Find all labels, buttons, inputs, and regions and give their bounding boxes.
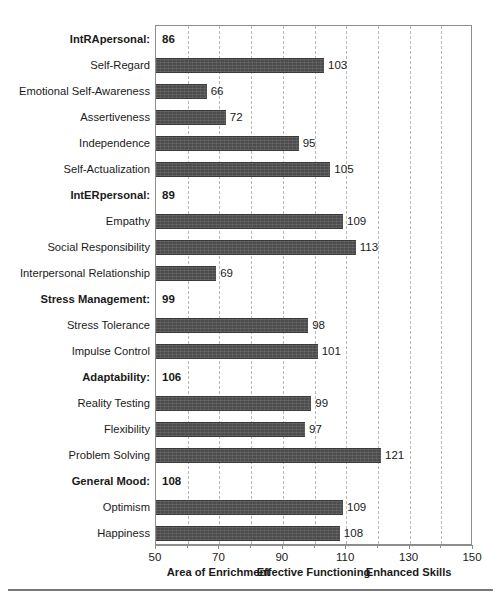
x-tick-label: 90	[275, 551, 288, 563]
bar-value-label: 97	[309, 415, 322, 444]
bar-value-label: 108	[344, 519, 363, 548]
section-score: 89	[162, 181, 175, 210]
bar-value-label: 121	[385, 441, 404, 470]
emotional-intelligence-bar-chart: IntRApersonal:86Self-Regard103Emotional …	[0, 0, 501, 606]
bar-value-label: 95	[303, 129, 316, 158]
row-label: Happiness	[0, 519, 150, 548]
x-tick-label: 50	[149, 551, 162, 563]
row-label: Social Responsibility	[0, 233, 150, 262]
bar	[156, 526, 340, 541]
row-label: Self-Regard	[0, 51, 150, 80]
bar	[156, 214, 343, 229]
row-label: Emotional Self-Awareness	[0, 77, 150, 106]
x-minor-tick-80	[250, 545, 251, 548]
row-label: Impulse Control	[0, 337, 150, 366]
chart-row: Problem Solving121	[0, 441, 501, 470]
chart-row: Reality Testing99	[0, 389, 501, 418]
chart-row: Empathy109	[0, 207, 501, 236]
bar	[156, 110, 226, 125]
row-label: Empathy	[0, 207, 150, 236]
x-tick-label: 110	[336, 551, 354, 563]
bar	[156, 344, 318, 359]
chart-row: Emotional Self-Awareness66	[0, 77, 501, 106]
chart-row-header: Stress Management:99	[0, 285, 501, 314]
x-minor-tick-100	[314, 545, 315, 548]
bar-value-label: 109	[347, 493, 366, 522]
chart-row: Interpersonal Relationship69	[0, 259, 501, 288]
chart-row-header: Adaptability:106	[0, 363, 501, 392]
bar	[156, 136, 299, 151]
chart-rows: IntRApersonal:86Self-Regard103Emotional …	[0, 25, 501, 545]
row-label: IntRApersonal:	[0, 25, 150, 54]
row-label: Adaptability:	[0, 363, 150, 392]
x-tick-150	[472, 545, 473, 549]
bar	[156, 58, 324, 73]
bar-value-label: 101	[322, 337, 341, 366]
bar-value-label: 103	[328, 51, 347, 80]
row-label: Interpersonal Relationship	[0, 259, 150, 288]
x-minor-tick-140	[440, 545, 441, 548]
row-label: General Mood:	[0, 467, 150, 496]
bar-value-label: 66	[211, 77, 224, 106]
row-label: Reality Testing	[0, 389, 150, 418]
chart-row-header: IntERpersonal:89	[0, 181, 501, 210]
bar	[156, 84, 207, 99]
x-tick-label: 150	[462, 551, 481, 563]
section-score: 106	[162, 363, 181, 392]
bar	[156, 240, 356, 255]
row-label: Flexibility	[0, 415, 150, 444]
bar-value-label: 109	[347, 207, 366, 236]
chart-row: Stress Tolerance98	[0, 311, 501, 340]
x-tick-label: 70	[212, 551, 225, 563]
zone-label: Area of Enrichment	[167, 566, 270, 578]
section-score: 86	[162, 25, 175, 54]
chart-row: Independence95	[0, 129, 501, 158]
x-tick-110	[345, 545, 346, 549]
x-tick-90	[282, 545, 283, 549]
section-score: 99	[162, 285, 175, 314]
bar-value-label: 99	[315, 389, 328, 418]
bar	[156, 318, 308, 333]
x-tick-70	[218, 545, 219, 549]
bar-value-label: 98	[312, 311, 325, 340]
row-label: Optimism	[0, 493, 150, 522]
chart-row-header: General Mood:108	[0, 467, 501, 496]
chart-row: Impulse Control101	[0, 337, 501, 366]
bar	[156, 422, 305, 437]
bar	[156, 448, 381, 463]
row-label: Independence	[0, 129, 150, 158]
section-score: 108	[162, 467, 181, 496]
bar-value-label: 69	[220, 259, 233, 288]
zone-label: Effective Functioning	[257, 566, 371, 578]
bar	[156, 396, 311, 411]
chart-row: Assertiveness72	[0, 103, 501, 132]
chart-row-header: IntRApersonal:86	[0, 25, 501, 54]
chart-row: Happiness108	[0, 519, 501, 548]
x-tick-130	[409, 545, 410, 549]
x-tick-50	[155, 545, 156, 549]
bar	[156, 162, 330, 177]
row-label: Self-Actualization	[0, 155, 150, 184]
chart-row: Optimism109	[0, 493, 501, 522]
row-label: Stress Tolerance	[0, 311, 150, 340]
x-tick-label: 130	[399, 551, 418, 563]
bar-value-label: 72	[230, 103, 243, 132]
bar	[156, 266, 216, 281]
chart-row: Flexibility97	[0, 415, 501, 444]
zone-label: Enhanced Skills	[366, 566, 452, 578]
row-label: Problem Solving	[0, 441, 150, 470]
x-minor-tick-60	[187, 545, 188, 548]
row-label: Stress Management:	[0, 285, 150, 314]
row-label: Assertiveness	[0, 103, 150, 132]
chart-row: Self-Regard103	[0, 51, 501, 80]
chart-row: Social Responsibility113	[0, 233, 501, 262]
bar-value-label: 105	[334, 155, 353, 184]
footer-divider	[8, 589, 493, 591]
row-label: IntERpersonal:	[0, 181, 150, 210]
x-minor-tick-120	[377, 545, 378, 548]
bar	[156, 500, 343, 515]
chart-row: Self-Actualization105	[0, 155, 501, 184]
bar-value-label: 113	[360, 233, 378, 262]
